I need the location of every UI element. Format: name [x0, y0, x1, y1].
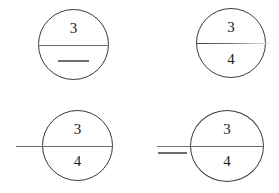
denominator-dash-mark [58, 60, 89, 62]
diagram-canvas: 3 3 4 3 4 3 4 [0, 0, 279, 193]
fraction-bar-extended [16, 146, 113, 147]
panel-bottom-right: 3 4 [139, 96, 279, 193]
panel-bottom-left: 3 4 [0, 96, 139, 193]
denominator-text: 4 [190, 154, 264, 169]
denominator-text: 4 [42, 154, 113, 169]
numerator-text: 3 [38, 21, 109, 36]
denominator-text: 4 [196, 52, 266, 67]
panel-top-left: 3 [0, 0, 139, 96]
fraction-bar [196, 43, 270, 44]
numerator-text: 3 [190, 122, 264, 137]
panel-top-right: 3 4 [139, 0, 279, 96]
numerator-text: 3 [42, 122, 113, 137]
external-dash-lower [158, 152, 187, 154]
numerator-text: 3 [196, 20, 266, 35]
fraction-bar [185, 146, 264, 147]
fraction-bar [38, 45, 109, 46]
external-dash-upper [157, 146, 187, 147]
